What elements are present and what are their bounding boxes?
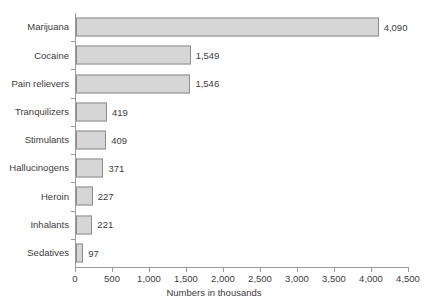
x-axis-tick-label: 3,000 <box>285 274 309 284</box>
x-axis-tick-label: 4,500 <box>396 274 420 284</box>
category-label: Marijuana <box>0 22 69 32</box>
bar <box>76 74 190 93</box>
bar <box>76 159 103 178</box>
bar-value-label: 221 <box>97 220 113 230</box>
bar-value-label: 409 <box>111 135 127 145</box>
bar-and-value: 221 <box>76 215 113 234</box>
x-axis-tick <box>186 268 187 272</box>
bar <box>76 187 93 206</box>
category-label: Inhalants <box>0 220 69 230</box>
x-axis-tick-label: 2,000 <box>211 274 235 284</box>
x-axis-title-label: Numbers in thousands <box>166 288 261 298</box>
bar-row: Tranquilizers419 <box>0 98 430 126</box>
bar <box>76 46 191 65</box>
bar-and-value: 227 <box>76 187 114 206</box>
y-axis-tick <box>71 69 75 70</box>
y-axis-tick <box>71 182 75 183</box>
x-axis-tick <box>112 268 113 272</box>
category-label: Sedatives <box>0 248 69 258</box>
bar-row: Pain relievers1,546 <box>0 69 430 97</box>
x-axis-tick <box>260 268 261 272</box>
bar-and-value: 97 <box>76 243 99 262</box>
bar-row: Hallucinogens371 <box>0 154 430 182</box>
x-axis-tick <box>334 268 335 272</box>
x-axis-tick-label: 0 <box>72 274 77 284</box>
bar <box>76 102 107 121</box>
bar <box>76 243 83 262</box>
category-label: Tranquilizers <box>0 107 69 117</box>
y-axis-tick <box>71 154 75 155</box>
x-axis-line <box>75 267 409 268</box>
bar-and-value: 1,546 <box>76 74 219 93</box>
bar-row: Heroin227 <box>0 182 430 210</box>
x-axis-tick-label: 1,000 <box>137 274 161 284</box>
bar-value-label: 371 <box>108 163 124 173</box>
bar-and-value: 371 <box>76 159 124 178</box>
category-label: Hallucinogens <box>0 163 69 173</box>
x-axis-tick-label: 3,500 <box>322 274 346 284</box>
x-axis-tick-label: 500 <box>104 274 120 284</box>
bar-value-label: 1,549 <box>196 51 220 61</box>
x-axis-tick <box>408 268 409 272</box>
bar-and-value: 4,090 <box>76 18 407 37</box>
x-axis-tick-label: 2,500 <box>248 274 272 284</box>
category-label: Pain relievers <box>0 79 69 89</box>
bar-row: Cocaine1,549 <box>0 41 430 69</box>
x-axis-tick <box>149 268 150 272</box>
bar-and-value: 409 <box>76 130 127 149</box>
x-axis-tick <box>75 268 76 272</box>
bar-and-value: 1,549 <box>76 46 219 65</box>
x-axis-tick <box>371 268 372 272</box>
bar-row: Inhalants221 <box>0 211 430 239</box>
category-label: Heroin <box>0 192 69 202</box>
x-axis-tick <box>297 268 298 272</box>
y-axis-tick <box>71 126 75 127</box>
bar-value-label: 1,546 <box>195 79 219 89</box>
category-label: Stimulants <box>0 135 69 145</box>
y-axis-tick <box>71 98 75 99</box>
bar-and-value: 419 <box>76 102 128 121</box>
bar-row: Sedatives97 <box>0 239 430 267</box>
bar-row: Marijuana4,090 <box>0 13 430 41</box>
y-axis-tick <box>71 211 75 212</box>
category-label: Cocaine <box>0 51 69 61</box>
y-axis-tick <box>71 239 75 240</box>
bar-chart: Marijuana4,090Cocaine1,549Pain relievers… <box>0 0 430 303</box>
bar <box>76 215 92 234</box>
bar-value-label: 419 <box>112 107 128 117</box>
bar <box>76 130 106 149</box>
bar-value-label: 97 <box>88 248 99 258</box>
x-axis-tick-label: 4,000 <box>359 274 383 284</box>
bar-row: Stimulants409 <box>0 126 430 154</box>
y-axis-tick <box>71 41 75 42</box>
x-axis-tick <box>223 268 224 272</box>
bar-rows: Marijuana4,090Cocaine1,549Pain relievers… <box>0 13 430 267</box>
bar <box>76 18 379 37</box>
x-axis-tick-label: 1,500 <box>174 274 198 284</box>
bar-value-label: 4,090 <box>384 22 408 32</box>
bar-value-label: 227 <box>98 192 114 202</box>
x-axis-title: Numbers in thousands <box>0 288 430 298</box>
